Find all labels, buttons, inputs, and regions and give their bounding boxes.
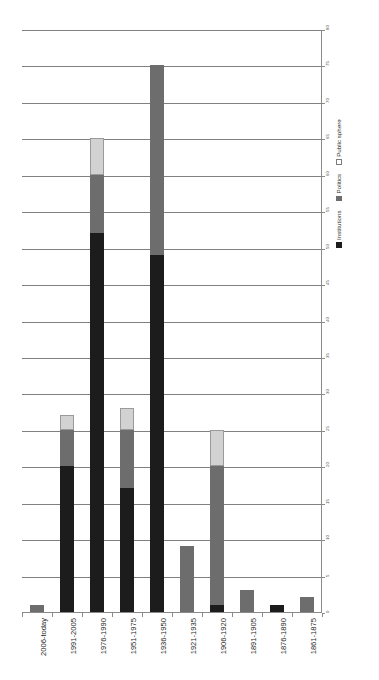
- y-axis-tick-label: 25: [326, 426, 330, 431]
- bar-group[interactable]: [150, 29, 164, 612]
- y-axis-tick-label: 45: [326, 280, 330, 285]
- y-axis-tick-label: 10: [326, 535, 330, 540]
- x-axis-tick-label: 1991-2005: [70, 618, 78, 654]
- y-axis-tick-label: 20: [326, 462, 330, 467]
- y-axis-tick-label: 0: [326, 611, 330, 613]
- bar-group[interactable]: [30, 29, 44, 612]
- bar-segment-public-sphere[interactable]: [210, 430, 224, 466]
- legend-item[interactable]: Politics: [336, 174, 342, 202]
- x-axis-tick-label: 1891-1905: [250, 618, 258, 654]
- y-axis-tick-label: 80: [326, 25, 330, 30]
- x-axis-tick-label: 1951-1975: [130, 618, 138, 654]
- x-axis-tick-label: 1861-1875: [310, 618, 318, 654]
- y-axis-tickmark: [322, 358, 325, 359]
- x-axis-tick-label: 1976-1990: [100, 618, 108, 654]
- x-axis-tickmark: [292, 613, 293, 617]
- legend-item[interactable]: Institutions: [336, 210, 342, 248]
- x-axis-tickmark: [322, 613, 323, 617]
- legend-item[interactable]: Public sphere: [336, 119, 342, 165]
- y-axis-tickmark: [322, 467, 325, 468]
- bar-group[interactable]: [120, 29, 134, 612]
- y-axis-tickmark: [322, 139, 325, 140]
- y-axis-tick-label: 70: [326, 98, 330, 103]
- chart-legend: InstitutionsPoliticsPublic sphere: [336, 248, 379, 254]
- y-axis-tick-label: 15: [326, 499, 330, 504]
- bar-segment-institutions[interactable]: [270, 605, 284, 612]
- y-axis-tickmark: [322, 212, 325, 213]
- x-axis-tickmark: [52, 613, 53, 617]
- legend-swatch-politics-icon: [336, 196, 342, 202]
- legend-swatch-publicsphere-icon: [336, 159, 342, 165]
- bar-segment-politics[interactable]: [180, 546, 194, 612]
- bar-series-container: [22, 30, 322, 613]
- x-axis-tickmark: [232, 613, 233, 617]
- y-axis-tick-label: 65: [326, 135, 330, 140]
- bar-segment-politics[interactable]: [300, 597, 314, 612]
- bar-group[interactable]: [60, 29, 74, 612]
- chart-page: 05101520253035404550556065707580 2006-to…: [0, 0, 379, 680]
- bar-segment-politics[interactable]: [30, 605, 44, 612]
- x-axis-tickmark: [82, 613, 83, 617]
- bar-group[interactable]: [180, 29, 194, 612]
- bar-segment-public-sphere[interactable]: [120, 408, 134, 430]
- x-axis-tick-label: 1876-1890: [280, 618, 288, 654]
- bar-segment-institutions[interactable]: [90, 233, 104, 612]
- x-axis-tickmark: [22, 613, 23, 617]
- legend-swatch-institutions-icon: [336, 243, 342, 249]
- y-axis-tick-label: 55: [326, 207, 330, 212]
- y-axis-tick-label: 60: [326, 171, 330, 176]
- legend-label: Institutions: [336, 210, 342, 240]
- x-axis-tickmark: [142, 613, 143, 617]
- x-axis-tick-label: 1936-1950: [160, 618, 168, 654]
- y-axis-tickmark: [322, 394, 325, 395]
- y-axis-tick-label: 30: [326, 390, 330, 395]
- bar-segment-institutions[interactable]: [120, 488, 134, 612]
- y-axis-tick-label: 40: [326, 317, 330, 322]
- bar-segment-politics[interactable]: [120, 430, 134, 488]
- bar-segment-institutions[interactable]: [150, 255, 164, 612]
- x-axis-tick-label: 1906-1920: [220, 618, 228, 654]
- y-axis-tick-label: 50: [326, 244, 330, 249]
- y-axis-tickmark: [322, 540, 325, 541]
- y-axis-tick-label: 35: [326, 353, 330, 358]
- bar-group[interactable]: [270, 29, 284, 612]
- x-axis-tick-label: 2006-today: [40, 618, 48, 656]
- bar-segment-politics[interactable]: [150, 65, 164, 254]
- bar-segment-public-sphere[interactable]: [60, 415, 74, 430]
- bar-segment-politics[interactable]: [210, 466, 224, 604]
- bar-group[interactable]: [240, 29, 254, 612]
- y-axis-tickmark: [322, 285, 325, 286]
- legend-label: Public sphere: [336, 119, 342, 157]
- legend-label: Politics: [336, 174, 342, 194]
- bar-segment-politics[interactable]: [240, 590, 254, 612]
- bar-segment-public-sphere[interactable]: [90, 138, 104, 174]
- bar-segment-institutions[interactable]: [60, 466, 74, 612]
- y-axis-tick-label: 5: [326, 574, 330, 576]
- x-axis-tickmark: [262, 613, 263, 617]
- bar-segment-politics[interactable]: [60, 430, 74, 466]
- x-axis-tickmark: [112, 613, 113, 617]
- y-axis-tickmark: [322, 66, 325, 67]
- bar-group[interactable]: [210, 29, 224, 612]
- x-axis-labels: 2006-today1991-20051976-19901951-1975193…: [22, 618, 322, 678]
- y-axis-tickmark: [322, 30, 325, 31]
- x-axis-tickmark: [202, 613, 203, 617]
- y-axis-tickmark: [322, 103, 325, 104]
- plot-area: [22, 30, 322, 613]
- x-axis-tick-label: 1921-1935: [190, 618, 198, 654]
- bar-group[interactable]: [90, 29, 104, 612]
- bar-segment-institutions[interactable]: [210, 605, 224, 612]
- y-axis-tick-label: 75: [326, 62, 330, 67]
- x-axis-tickmark: [172, 613, 173, 617]
- bar-segment-politics[interactable]: [90, 175, 104, 233]
- bar-group[interactable]: [300, 29, 314, 612]
